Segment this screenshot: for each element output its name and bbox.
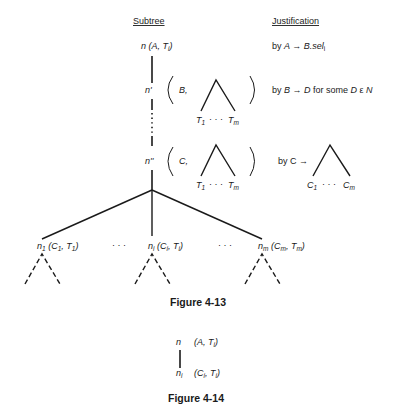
svg-text:· · ·: · · · bbox=[322, 179, 336, 189]
ellipsis-left: · · · bbox=[112, 240, 126, 250]
svg-text:by A → B.seli: by A → B.seli bbox=[272, 41, 325, 52]
svg-text:n1 (C1, T1): n1 (C1, T1) bbox=[37, 241, 78, 252]
n-prime-symbol: B, bbox=[179, 85, 188, 95]
caption-figure-4-14: Figure 4-14 bbox=[168, 392, 224, 404]
svg-text:n (A, Ti): n (A, Ti) bbox=[141, 41, 172, 52]
caption-figure-4-13: Figure 4-13 bbox=[170, 296, 226, 308]
svg-text:C1: C1 bbox=[307, 180, 318, 191]
svg-text:· · ·: · · · bbox=[209, 114, 223, 124]
child-node-i: ni (Ci, Ti) bbox=[148, 241, 183, 252]
child-node-m: nm (Cm, Tm) bbox=[258, 241, 305, 252]
svg-text:nm (Cm, Tm): nm (Cm, Tm) bbox=[258, 241, 305, 252]
left-paren bbox=[168, 76, 173, 104]
n-double-prime-symbol: C, bbox=[179, 156, 188, 166]
root-justification: by A → B.seli bbox=[272, 41, 325, 52]
branch-edge-right bbox=[152, 190, 262, 239]
n-prime-leaves: T1 · · · Tm bbox=[196, 114, 240, 126]
branch-edge-left bbox=[42, 190, 152, 239]
n-double-prime-leaves: T1 · · · Tm bbox=[196, 179, 240, 191]
svg-text:ni (Ci, Ti): ni (Ci, Ti) bbox=[148, 241, 183, 252]
figure-4-14-bottom: ni (Ci, Ti) bbox=[176, 368, 220, 379]
svg-text:T1: T1 bbox=[196, 115, 206, 126]
svg-text:(Ci, Ti): (Ci, Ti) bbox=[194, 368, 220, 379]
svg-text:Tm: Tm bbox=[228, 115, 240, 126]
svg-text:Tm: Tm bbox=[228, 180, 240, 191]
n-double-prime-triangle bbox=[201, 145, 235, 176]
right-paren bbox=[250, 76, 255, 104]
justification-header: Justification bbox=[272, 16, 319, 26]
dashed-subtrees bbox=[25, 254, 280, 284]
figure-4-14-top: n (A, Ti) bbox=[176, 337, 218, 348]
svg-text:· · ·: · · · bbox=[209, 179, 223, 189]
svg-text:ni: ni bbox=[176, 368, 183, 379]
n-prime-label: n' bbox=[145, 85, 152, 95]
svg-text:n: n bbox=[176, 337, 181, 347]
child-node-1: n1 (C1, T1) bbox=[37, 241, 78, 252]
n-prime-justification: by B → D for some D ε N bbox=[272, 85, 373, 95]
right-paren bbox=[250, 147, 255, 176]
svg-text:by C →: by C → bbox=[278, 156, 308, 166]
n-prime-triangle bbox=[201, 80, 235, 111]
svg-text:Cm: Cm bbox=[343, 180, 356, 191]
subtree-header: Subtree bbox=[133, 16, 165, 26]
root-node-label: n (A, Ti) bbox=[141, 41, 172, 52]
svg-text:T1: T1 bbox=[196, 180, 206, 191]
n-double-prime-label: n'' bbox=[145, 156, 154, 166]
figure-canvas: Subtree Justification n (A, Ti) by A → B… bbox=[0, 0, 396, 404]
svg-text:(A, Ti): (A, Ti) bbox=[194, 337, 218, 348]
ellipsis-right: · · · bbox=[218, 240, 232, 250]
left-paren bbox=[168, 147, 173, 176]
n-double-prime-justification: by C → C1 · · · Cm bbox=[278, 145, 356, 191]
